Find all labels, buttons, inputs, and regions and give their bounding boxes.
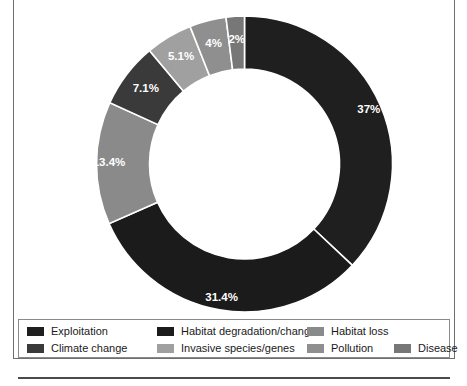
slice-value-label: 2% <box>228 33 245 45</box>
slice-value-label: 31.4% <box>205 291 238 303</box>
footer-rule <box>18 377 450 379</box>
legend-item-label: Pollution <box>331 343 373 354</box>
donut-slice[interactable] <box>245 16 393 265</box>
slice-value-label: 13.4% <box>93 156 126 168</box>
legend-item[interactable]: Exploitation <box>27 322 108 340</box>
donut-chart: 37%31.4%13.4%7.1%5.1%4%2% <box>14 0 467 318</box>
donut-slice-group <box>96 16 392 312</box>
legend-color-swatch <box>27 327 44 336</box>
legend-color-swatch <box>157 327 174 336</box>
legend-item[interactable]: Pollution <box>307 339 373 357</box>
slice-value-label: 4% <box>205 37 222 49</box>
legend-row: ExploitationHabitat degradation/changeHa… <box>19 322 449 340</box>
donut-chart-area: 37%31.4%13.4%7.1%5.1%4%2% <box>14 0 467 318</box>
slice-value-label: 7.1% <box>133 82 159 94</box>
legend-item-label: Climate change <box>51 343 127 354</box>
legend-color-swatch <box>27 344 44 353</box>
slice-value-label: 37% <box>357 103 380 115</box>
legend-color-swatch <box>394 344 411 353</box>
legend-item[interactable]: Climate change <box>27 339 127 357</box>
legend-item[interactable]: Habitat loss <box>307 322 388 340</box>
legend-item[interactable]: Invasive species/genes <box>157 339 295 357</box>
legend-item-label: Disease <box>418 343 458 354</box>
legend-row: Climate changeInvasive species/genesPoll… <box>19 339 449 357</box>
figure-frame: 37%31.4%13.4%7.1%5.1%4%2% <box>13 0 455 359</box>
slice-value-label: 5.1% <box>168 50 194 62</box>
legend-item-label: Habitat degradation/change <box>181 326 316 337</box>
legend-color-swatch <box>307 344 324 353</box>
chart-legend: ExploitationHabitat degradation/changeHa… <box>18 319 450 358</box>
legend-color-swatch <box>157 344 174 353</box>
legend-item[interactable]: Habitat degradation/change <box>157 322 316 340</box>
legend-item-label: Habitat loss <box>331 326 388 337</box>
legend-item[interactable]: Disease <box>394 339 458 357</box>
legend-item-label: Exploitation <box>51 326 108 337</box>
legend-color-swatch <box>307 327 324 336</box>
legend-item-label: Invasive species/genes <box>181 343 295 354</box>
